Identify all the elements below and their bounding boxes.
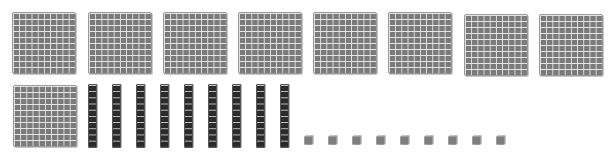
hundred-flat-block xyxy=(539,14,603,76)
unit-cube-block xyxy=(448,136,457,145)
ten-rod-block xyxy=(160,84,169,148)
unit-cube-block xyxy=(376,136,385,145)
hundred-flat-block xyxy=(464,14,528,76)
unit-cube-block xyxy=(304,136,313,145)
unit-cube-block xyxy=(496,136,505,145)
ten-rod-block xyxy=(280,84,289,148)
ten-rod-block xyxy=(208,84,217,148)
ten-rod-block xyxy=(136,84,145,148)
unit-cube-block xyxy=(400,136,409,145)
unit-cube-block xyxy=(352,136,361,145)
hundred-flat-block xyxy=(13,85,77,147)
ten-rod-block xyxy=(232,84,241,148)
hundred-flat-block xyxy=(12,12,76,74)
hundred-flat-block xyxy=(238,12,302,74)
hundred-flat-block xyxy=(88,12,152,74)
unit-cube-block xyxy=(472,136,481,145)
ten-rod-block xyxy=(88,84,97,148)
hundred-flat-block xyxy=(388,12,452,74)
unit-cube-block xyxy=(328,136,337,145)
ten-rod-block xyxy=(184,84,193,148)
unit-cube-block xyxy=(424,136,433,145)
hundred-flat-block xyxy=(313,12,377,74)
ten-rod-block xyxy=(112,84,121,148)
hundred-flat-block xyxy=(163,12,227,74)
ten-rod-block xyxy=(256,84,265,148)
